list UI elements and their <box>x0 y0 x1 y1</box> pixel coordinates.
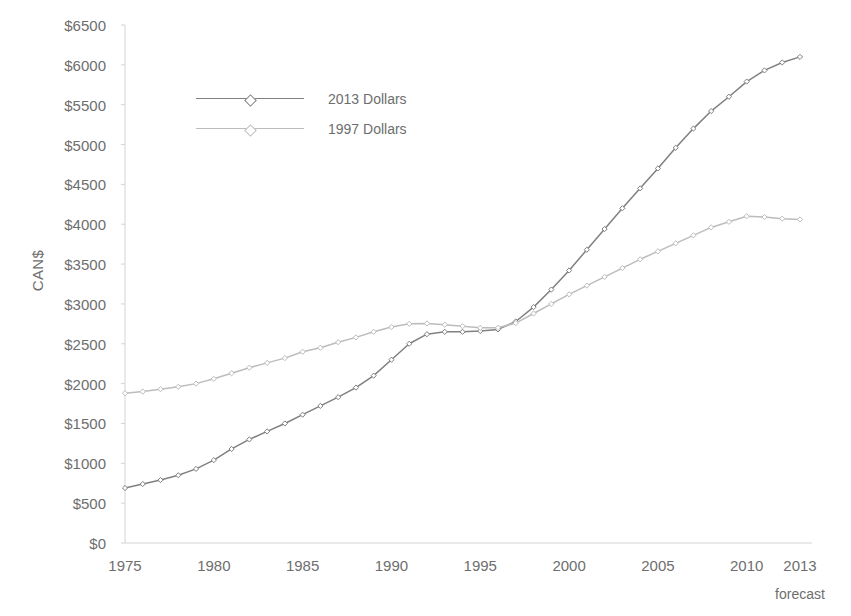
data-point-marker <box>122 391 127 396</box>
data-point-marker <box>265 360 270 365</box>
legend-item-1997-dollars: 1997 Dollars <box>196 114 456 144</box>
data-point-marker <box>442 329 447 334</box>
data-point-marker <box>300 349 305 354</box>
y-tick-label: $2500 <box>22 337 106 352</box>
data-point-marker <box>407 321 412 326</box>
legend-swatch-1997-dollars <box>196 123 304 135</box>
data-point-marker <box>389 324 394 329</box>
y-tick-label: $6500 <box>22 18 106 33</box>
data-point-marker <box>353 335 358 340</box>
data-point-marker <box>140 389 145 394</box>
data-point-marker <box>673 241 678 246</box>
data-point-marker <box>371 329 376 334</box>
data-point-marker <box>744 214 749 219</box>
data-point-marker <box>211 376 216 381</box>
x-tick-label: 2010 <box>730 558 763 573</box>
data-point-marker <box>602 274 607 279</box>
data-point-marker <box>193 381 198 386</box>
data-point-marker <box>193 466 198 471</box>
x-tick-label: 2005 <box>641 558 674 573</box>
data-point-marker <box>797 54 802 59</box>
data-point-marker <box>460 324 465 329</box>
data-point-marker <box>442 322 447 327</box>
data-point-marker <box>762 214 767 219</box>
data-point-marker <box>176 384 181 389</box>
data-point-marker <box>726 219 731 224</box>
data-point-marker <box>797 217 802 222</box>
data-point-marker <box>709 225 714 230</box>
data-point-marker <box>318 403 323 408</box>
x-tick-label: 1975 <box>108 558 141 573</box>
data-point-marker <box>282 421 287 426</box>
legend-swatch-2013-dollars <box>196 93 304 105</box>
data-point-marker <box>460 329 465 334</box>
y-tick-label: $6000 <box>22 58 106 73</box>
data-point-marker <box>282 356 287 361</box>
data-point-marker <box>780 60 785 65</box>
y-tick-label: $3000 <box>22 297 106 312</box>
data-point-marker <box>247 365 252 370</box>
y-tick-label: $1000 <box>22 456 106 471</box>
y-tick-label: $4000 <box>22 217 106 232</box>
data-point-marker <box>336 340 341 345</box>
data-point-marker <box>318 345 323 350</box>
x-tick-label: 1990 <box>375 558 408 573</box>
x-tick-label: 2000 <box>552 558 585 573</box>
data-point-marker <box>158 387 163 392</box>
forecast-annotation: forecast <box>775 586 825 602</box>
y-tick-label: $1500 <box>22 416 106 431</box>
chart-legend: 2013 Dollars 1997 Dollars <box>196 84 456 144</box>
y-tick-label: $500 <box>22 496 106 511</box>
legend-label-1997-dollars: 1997 Dollars <box>328 121 407 137</box>
y-tick-label: $3500 <box>22 257 106 272</box>
x-tick-label: 1985 <box>286 558 319 573</box>
legend-marker-2013-dollars <box>244 94 257 107</box>
y-tick-label: $5500 <box>22 98 106 113</box>
data-point-marker <box>265 429 270 434</box>
data-point-marker <box>424 321 429 326</box>
data-point-marker <box>691 233 696 238</box>
legend-marker-1997-dollars <box>244 124 257 137</box>
data-point-marker <box>176 473 181 478</box>
data-point-marker <box>620 265 625 270</box>
line-chart: CAN$ $0$500$1000$1500$2000$2500$3000$350… <box>0 0 851 616</box>
series-line-1997-dollars <box>125 216 800 393</box>
data-point-marker <box>122 485 127 490</box>
data-point-marker <box>584 283 589 288</box>
x-tick-label: 1995 <box>464 558 497 573</box>
y-tick-label: $5000 <box>22 138 106 153</box>
legend-item-2013-dollars: 2013 Dollars <box>196 84 456 114</box>
y-tick-label: $0 <box>22 536 106 551</box>
y-tick-label: $2000 <box>22 377 106 392</box>
y-tick-label: $4500 <box>22 177 106 192</box>
data-point-marker <box>638 257 643 262</box>
x-tick-label: 2013 <box>783 558 816 573</box>
data-point-marker <box>158 477 163 482</box>
data-point-marker <box>229 371 234 376</box>
data-point-marker <box>780 216 785 221</box>
legend-label-2013-dollars: 2013 Dollars <box>328 91 407 107</box>
x-tick-label: 1980 <box>197 558 230 573</box>
data-point-marker <box>655 249 660 254</box>
data-point-marker <box>140 481 145 486</box>
data-point-marker <box>300 412 305 417</box>
